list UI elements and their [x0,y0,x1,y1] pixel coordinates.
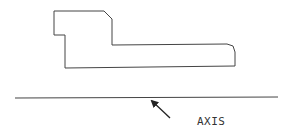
arrow-icon [152,101,170,118]
axis-line [15,97,278,98]
part-outline [54,11,235,68]
diagram-canvas: AXIS [0,0,294,133]
axis-label: AXIS [197,115,226,128]
